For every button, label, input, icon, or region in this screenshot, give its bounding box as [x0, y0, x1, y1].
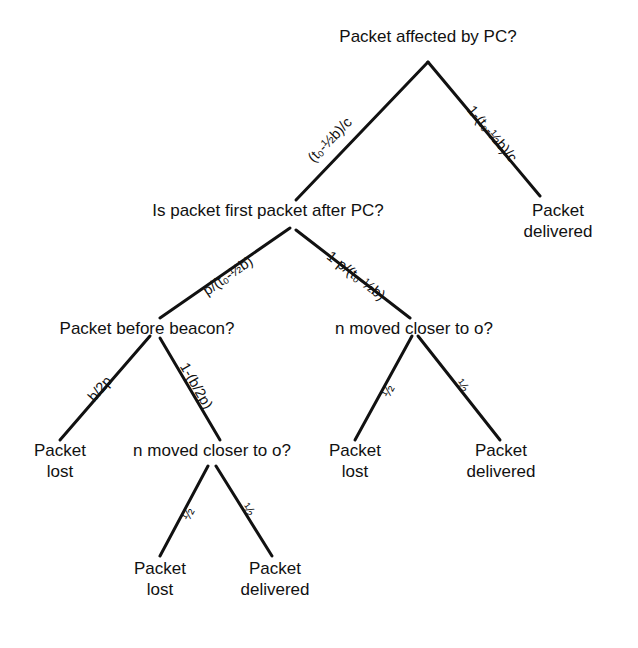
- node-is-packet-first-packet-after-pc[interactable]: Is packet first packet after PC?: [152, 200, 383, 221]
- node-packet-before-beacon[interactable]: Packet before beacon?: [60, 318, 235, 339]
- node-packet-delivered-bottom[interactable]: Packet delivered: [241, 558, 310, 600]
- node-n-moved-closer-to-o-left[interactable]: n moved closer to o?: [133, 440, 291, 461]
- node-label-line2: delivered: [241, 579, 310, 600]
- node-label: Packet: [34, 441, 86, 460]
- node-label: Packet: [532, 201, 584, 220]
- node-packet-lost-left[interactable]: Packet lost: [34, 440, 86, 482]
- node-label: Packet: [329, 441, 381, 460]
- node-label: Packet before beacon?: [60, 319, 235, 338]
- node-label: Packet affected by PC?: [339, 27, 516, 46]
- node-packet-lost-mid-right[interactable]: Packet lost: [329, 440, 381, 482]
- node-label: n moved closer to o?: [133, 441, 291, 460]
- edge-root-left: [296, 62, 428, 200]
- node-packet-affected-by-pc[interactable]: Packet affected by PC?: [339, 26, 516, 47]
- node-label-line2: delivered: [524, 221, 593, 242]
- node-label: Packet: [475, 441, 527, 460]
- node-n-moved-closer-to-o-right[interactable]: n moved closer to o?: [335, 318, 493, 339]
- node-label: n moved closer to o?: [335, 319, 493, 338]
- decision-tree-diagram: Packet affected by PC? Is packet first p…: [0, 0, 638, 648]
- node-label: Packet: [134, 559, 186, 578]
- node-label-line2: lost: [34, 461, 86, 482]
- node-label-line2: lost: [329, 461, 381, 482]
- node-label: Packet: [249, 559, 301, 578]
- node-label: Is packet first packet after PC?: [152, 201, 383, 220]
- node-packet-delivered-top-right[interactable]: Packet delivered: [524, 200, 593, 242]
- node-label-line2: delivered: [467, 461, 536, 482]
- node-packet-delivered-mid-right[interactable]: Packet delivered: [467, 440, 536, 482]
- node-label-line2: lost: [134, 579, 186, 600]
- node-packet-lost-bottom[interactable]: Packet lost: [134, 558, 186, 600]
